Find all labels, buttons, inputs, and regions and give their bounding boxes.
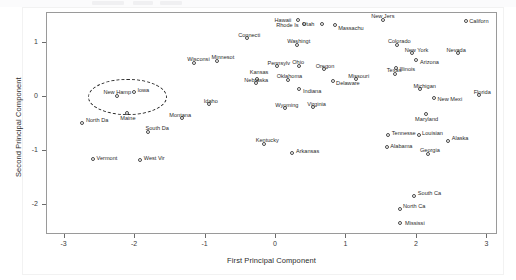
data-point-label: New York <box>405 47 429 53</box>
x-tick <box>64 234 65 238</box>
data-point <box>385 145 389 149</box>
data-point-label: Californ <box>469 18 488 24</box>
data-point-label: Missouri <box>348 73 369 79</box>
data-point <box>138 158 142 162</box>
data-point-label: Texas <box>387 67 402 73</box>
data-point-label: South Ca <box>418 190 441 196</box>
data-point-label: New Jers <box>371 13 394 19</box>
data-point <box>132 90 136 94</box>
data-point-label: North Ca <box>403 203 425 209</box>
data-point <box>412 194 416 198</box>
data-point-label: Oklahoma <box>277 73 303 79</box>
x-axis-label: First Principal Component <box>172 256 372 265</box>
data-point-label: Washingt <box>287 38 310 44</box>
data-point-label: Vermont <box>97 155 118 161</box>
data-point <box>424 112 428 116</box>
data-point <box>91 157 95 161</box>
x-tick <box>205 234 206 238</box>
capture-artifact-strip <box>0 0 516 7</box>
data-point-label: Georgia <box>420 147 440 153</box>
data-point <box>386 133 390 137</box>
x-tick <box>345 234 346 238</box>
data-point-label: Alaska <box>452 135 469 141</box>
x-tick-label: 3 <box>474 240 498 247</box>
data-point-label: Illinois <box>400 66 416 72</box>
data-point-label: Massachu <box>338 25 364 31</box>
data-point-label: Iowa <box>137 87 149 93</box>
y-tick-label: -2 <box>22 200 38 207</box>
data-point-label: New Mexi <box>438 96 463 102</box>
data-point-label: Rhode Is <box>276 22 298 28</box>
x-tick <box>416 234 417 238</box>
data-point-label: New Hamp <box>103 89 131 95</box>
data-point-label: Mississi <box>405 220 425 226</box>
y-tick-label: 1 <box>22 38 38 45</box>
x-tick <box>486 234 487 238</box>
plot-panel: HawaiiRhode IsUtahMassachuNew JersCalifo… <box>46 12 497 234</box>
data-point <box>432 96 436 100</box>
data-point-label: Maine <box>120 115 135 121</box>
data-point-label: Montana <box>169 112 191 118</box>
y-tick-label: 0 <box>22 92 38 99</box>
x-tick-label: 2 <box>404 240 428 247</box>
data-point-label: Arizona <box>420 59 439 65</box>
data-point-label: Ohio <box>292 59 304 65</box>
x-tick <box>275 234 276 238</box>
data-point-label: Minnesot <box>212 54 235 60</box>
x-tick-label: 0 <box>263 240 287 247</box>
data-point-label: Nevada <box>447 47 466 53</box>
y-tick-label: -1 <box>22 146 38 153</box>
data-point-label: Maryland <box>415 116 438 122</box>
scatter-plot-figure: First Principal Component Second Princip… <box>0 0 516 280</box>
data-point-label: Oregon <box>316 63 335 69</box>
data-point <box>464 19 468 23</box>
data-point <box>414 58 418 62</box>
data-point-label: Pennsylv <box>267 60 290 66</box>
data-point-label: Florida <box>474 89 491 95</box>
data-point-label: Kansas <box>250 69 269 75</box>
x-tick-label: -1 <box>193 240 217 247</box>
x-tick-label: -2 <box>122 240 146 247</box>
data-point <box>290 151 294 155</box>
data-point-label: Indiana <box>303 88 321 94</box>
data-point-label: Arkansas <box>296 148 319 154</box>
data-point-label: Utah <box>303 21 315 27</box>
data-point-label: Connecti <box>238 32 260 38</box>
x-tick <box>134 234 135 238</box>
x-tick-label: -3 <box>52 240 76 247</box>
data-point-label: Michigan <box>413 83 435 89</box>
data-point-label: Nebraska <box>244 77 268 83</box>
data-point-label: Virginia <box>307 101 326 107</box>
x-tick-label: 1 <box>333 240 357 247</box>
data-point <box>417 133 421 137</box>
data-point-label: West Vir <box>144 155 165 161</box>
data-point <box>297 87 301 91</box>
data-point <box>446 139 450 143</box>
data-point <box>398 207 402 211</box>
data-point-label: Kentucky <box>256 137 279 143</box>
data-point <box>333 23 337 27</box>
highlight-ellipse-annotation <box>88 79 168 116</box>
data-point-label: North Da <box>86 117 108 123</box>
data-point <box>398 221 402 225</box>
data-point <box>125 111 129 115</box>
data-point-label: Louisian <box>422 130 443 136</box>
data-point-label: Wyoming <box>275 102 298 108</box>
data-point-label: Tennesse <box>392 130 416 136</box>
data-point-label: Idaho <box>204 98 218 104</box>
data-point-label: Colorado <box>388 38 411 44</box>
data-point-label: Wisconsi <box>187 56 209 62</box>
data-point <box>320 22 324 26</box>
data-point <box>80 121 84 125</box>
data-point <box>331 79 335 83</box>
data-point-label: Alabama <box>390 143 412 149</box>
data-point-label: South Da <box>145 125 168 131</box>
